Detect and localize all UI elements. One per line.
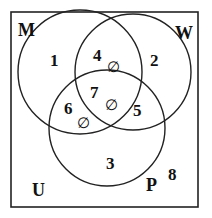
venn-diagram: M W P U 1 2 3 4 5 6 7 8 ∅ ∅ ∅ xyxy=(0,0,212,218)
region-6: 6 xyxy=(64,99,73,118)
region-4: 4 xyxy=(93,46,102,65)
region-8: 8 xyxy=(168,165,177,184)
region-2: 2 xyxy=(150,51,159,70)
set-label-w: W xyxy=(175,23,193,43)
set-label-p: P xyxy=(146,175,157,195)
region-5: 5 xyxy=(133,101,142,120)
empty-set-icon-region-4: ∅ xyxy=(107,58,120,76)
region-3: 3 xyxy=(106,154,115,173)
region-7: 7 xyxy=(90,83,99,102)
empty-set-icon-region-7: ∅ xyxy=(105,96,118,114)
set-label-m: M xyxy=(18,20,35,40)
region-1: 1 xyxy=(50,51,59,70)
empty-set-icon-region-6: ∅ xyxy=(77,114,90,132)
universe-label: U xyxy=(32,180,45,200)
